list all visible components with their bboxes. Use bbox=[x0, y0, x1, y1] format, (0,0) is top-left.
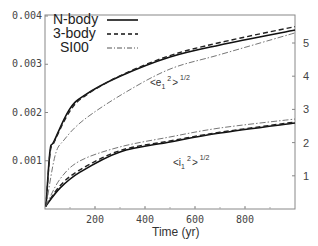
series-nbody-i-line bbox=[46, 123, 295, 206]
x-axis-label: Time (yr) bbox=[152, 225, 200, 239]
series-nbody-e-line bbox=[46, 30, 295, 207]
svg-text:<e12>1/2: <e12>1/2 bbox=[150, 74, 190, 90]
y-right-tick-label: 3 bbox=[303, 103, 309, 115]
y-right-tick-label: 4 bbox=[303, 70, 309, 82]
annotation-e: <e12>1/2 bbox=[150, 74, 190, 90]
y-right-tick-label: 2 bbox=[303, 137, 309, 149]
legend: N-body 3-body SI00 bbox=[53, 11, 138, 55]
line-chart: 2004006008000.0010.0020.0030.00412345 N-… bbox=[0, 0, 318, 246]
series-3body-i-line bbox=[46, 122, 295, 206]
y-right-tick-label: 5 bbox=[303, 37, 309, 49]
annotation-i: <i12>1/2 bbox=[173, 154, 210, 170]
series-si00-i-line bbox=[46, 119, 295, 206]
x-tick-label: 400 bbox=[136, 214, 154, 225]
y-right-tick-label: 1 bbox=[303, 170, 309, 182]
x-tick-label: 600 bbox=[186, 214, 204, 225]
y-left-tick-label: 0.003 bbox=[12, 58, 42, 69]
svg-text:<i12>1/2: <i12>1/2 bbox=[173, 154, 210, 170]
y-left-tick-label: 0.001 bbox=[12, 155, 42, 166]
y-left-tick-label: 0.004 bbox=[12, 10, 42, 21]
y-left-tick-label: 0.002 bbox=[12, 107, 42, 118]
x-tick-label: 800 bbox=[236, 214, 254, 225]
x-tick-label: 200 bbox=[86, 214, 104, 225]
series-si00-e-line bbox=[46, 33, 295, 207]
legend-label-si00: SI00 bbox=[60, 39, 89, 55]
